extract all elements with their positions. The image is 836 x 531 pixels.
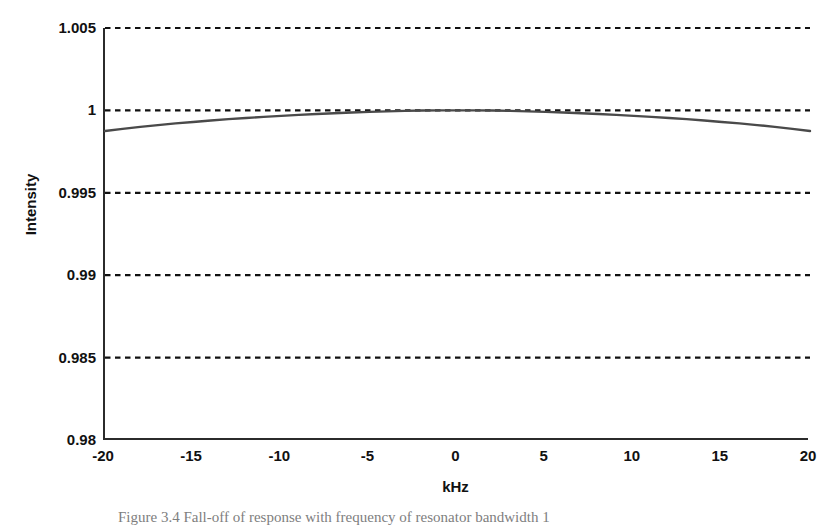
data-series-group — [105, 110, 810, 131]
y-tick-label: 0.99 — [24, 267, 96, 282]
x-tick-label: 20 — [778, 448, 836, 463]
gridlines — [105, 28, 810, 358]
figure-container: Intensity 1.00510.9950.990.9850.98 -20-1… — [0, 0, 836, 531]
y-tick-label: 0.98 — [24, 432, 96, 447]
figure-caption: Figure 3.4 Fall-off of response with fre… — [118, 509, 818, 526]
y-tick-label: 1 — [24, 102, 96, 117]
x-tick-label: 15 — [690, 448, 750, 463]
x-axis-tick-labels: -20-15-10-505101520 — [103, 448, 808, 472]
x-axis-title: kHz — [103, 478, 808, 495]
plot-svg — [105, 28, 810, 440]
y-tick-label: 0.985 — [24, 350, 96, 365]
x-tick-label: 5 — [514, 448, 574, 463]
x-tick-label: -5 — [337, 448, 397, 463]
x-tick-label: 0 — [426, 448, 486, 463]
x-tick-label: -15 — [161, 448, 221, 463]
x-tick-label: 10 — [602, 448, 662, 463]
x-tick-label: -10 — [249, 448, 309, 463]
data-line — [105, 110, 810, 131]
y-tick-label: 0.995 — [24, 185, 96, 200]
plot-area — [103, 28, 808, 440]
x-tick-label: -20 — [73, 448, 133, 463]
y-tick-label: 1.005 — [24, 20, 96, 35]
